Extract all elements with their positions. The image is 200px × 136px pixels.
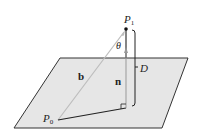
label-b: b <box>78 71 84 82</box>
label-p0-main: P <box>43 112 50 124</box>
label-p1-main: P <box>124 13 131 25</box>
label-theta: θ <box>116 41 121 51</box>
label-p1-subscript: 1 <box>131 19 135 27</box>
label-p0-subscript: 0 <box>50 118 54 126</box>
label-n: n <box>115 76 121 87</box>
vector-n-arrowhead <box>124 47 128 53</box>
label-p1: P1 <box>124 14 134 27</box>
label-p0: P0 <box>43 113 53 126</box>
label-d: D <box>140 63 148 74</box>
point-p1 <box>124 27 128 31</box>
plane <box>14 58 188 128</box>
diagram-svg <box>0 0 200 136</box>
diagram-canvas: P1 θ D b n P0 <box>0 0 200 136</box>
